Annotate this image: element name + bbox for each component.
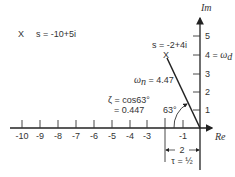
zeta-label-2: = 0.447 bbox=[114, 105, 144, 115]
pole-label-2: s = -2+4i bbox=[152, 40, 187, 50]
tau-label: τ = ½ bbox=[171, 156, 193, 166]
s-plane-diagram: -10 -9 -8 -7 -6 -5 -4 -3 -1 1 2 3 4 = ωd… bbox=[0, 0, 235, 177]
svg-text:-10: -10 bbox=[15, 131, 28, 141]
svg-text:3: 3 bbox=[205, 69, 210, 79]
svg-text:-1: -1 bbox=[179, 131, 187, 141]
imag-axis-label: Im bbox=[200, 2, 212, 13]
omega-n-label: ωn = 4.47 bbox=[134, 74, 174, 87]
svg-text:-7: -7 bbox=[72, 131, 80, 141]
angle-label: 63° bbox=[163, 105, 177, 115]
svg-text:-3: -3 bbox=[143, 131, 151, 141]
pole-marker-1: X bbox=[18, 29, 24, 39]
svg-text:-8: -8 bbox=[54, 131, 62, 141]
pole-marker-2: X bbox=[163, 50, 169, 60]
omega-n-vector bbox=[167, 58, 200, 128]
real-ticks bbox=[22, 120, 183, 128]
real-axis-label: Re bbox=[214, 131, 226, 142]
real-tick-labels: -10 -9 -8 -7 -6 -5 -4 -3 -1 bbox=[15, 131, 187, 141]
svg-text:-4: -4 bbox=[126, 131, 134, 141]
svg-text:1: 1 bbox=[205, 105, 210, 115]
svg-text:4 = ωd: 4 = ωd bbox=[205, 49, 233, 62]
svg-text:-9: -9 bbox=[36, 131, 44, 141]
imag-tick-labels: 1 2 3 4 = ωd 5 bbox=[205, 31, 233, 115]
svg-text:-6: -6 bbox=[90, 131, 98, 141]
svg-text:2: 2 bbox=[205, 87, 210, 97]
pole-label-1: s = -10+5i bbox=[36, 29, 76, 39]
imag-ticks bbox=[193, 36, 200, 110]
svg-text:-5: -5 bbox=[108, 131, 116, 141]
zeta-label-1: ζ = cos63° bbox=[108, 95, 150, 105]
svg-text:5: 5 bbox=[205, 31, 210, 41]
dim-label: 2 bbox=[179, 145, 184, 155]
